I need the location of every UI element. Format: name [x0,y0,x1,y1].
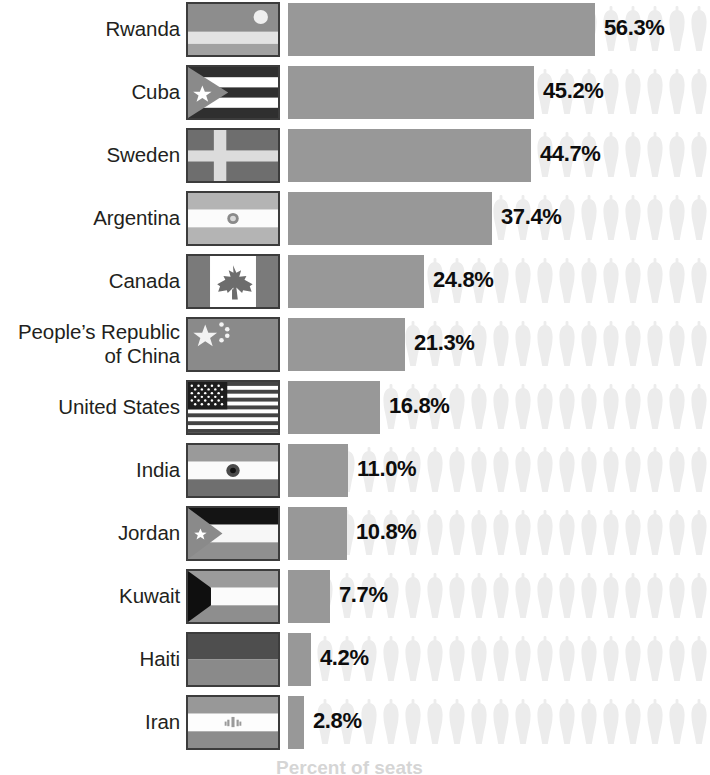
value-bar [288,66,534,119]
value-bar [288,129,531,182]
value-label: 11.0% [357,456,416,482]
value-label: 37.4% [501,204,561,230]
country-label: Kuwait [0,584,180,608]
value-bar [288,192,492,245]
value-label: 44.7% [540,141,600,167]
kuwait-flag [186,569,280,624]
value-bar [288,696,304,749]
country-label: Rwanda [0,17,180,41]
sweden-flag [186,128,280,183]
country-label: Canada [0,269,180,293]
value-bar [288,3,595,56]
chart-row: Canada 24.8% [0,252,699,315]
rwanda-flag [186,2,280,57]
value-bar [288,633,311,686]
value-label: 2.8% [313,708,362,734]
value-bar [288,570,330,623]
value-label: 10.8% [356,519,416,545]
country-label: Argentina [0,206,180,230]
haiti-flag [186,632,280,687]
value-label: 45.2% [543,78,603,104]
country-label: India [0,458,180,482]
value-bar [288,255,424,308]
value-bar [288,318,405,371]
canada-flag [186,254,280,309]
usa-flag [186,380,280,435]
chart-row: Jordan 10.8% [0,504,699,567]
value-label: 21.3% [414,330,474,356]
country-label: Jordan [0,521,180,545]
value-label: 56.3% [604,15,664,41]
country-label: Sweden [0,143,180,167]
china-flag [186,317,280,372]
chart-row: Kuwait 7.7% [0,567,699,630]
country-label: United States [0,395,180,419]
argentina-flag [186,191,280,246]
india-flag [186,443,280,498]
value-bar [288,444,348,497]
country-label: Iran [0,710,180,734]
country-label: Cuba [0,80,180,104]
value-label: 16.8% [389,393,449,419]
value-label: 7.7% [339,582,388,608]
chart-row: United States 16.8% [0,378,699,441]
value-label: 4.2% [320,645,369,671]
chart-row: Argentina 37.4% [0,189,699,252]
iran-flag [186,695,280,750]
value-bar [288,381,380,434]
chart-row: India 11.0% [0,441,699,504]
chart-row: Sweden 44.7% [0,126,699,189]
chart-row: People’s Republicof China 21.3% [0,315,699,378]
jordan-flag [186,506,280,561]
chart-row: Haiti 4.2% [0,630,699,693]
chart-row: Iran 2.8% [0,693,699,756]
chart-row: Rwanda 56.3% [0,0,699,63]
x-axis-caption: Percent of seats [0,757,699,775]
value-label: 24.8% [433,267,493,293]
country-label-line2: of China [0,344,180,368]
cuba-flag [186,65,280,120]
country-label: People’s Republicof China [0,320,180,368]
chart-row: Cuba 45.2% [0,63,699,126]
value-bar [288,507,347,560]
country-label-line1: People’s Republic [0,320,180,344]
country-label: Haiti [0,647,180,671]
